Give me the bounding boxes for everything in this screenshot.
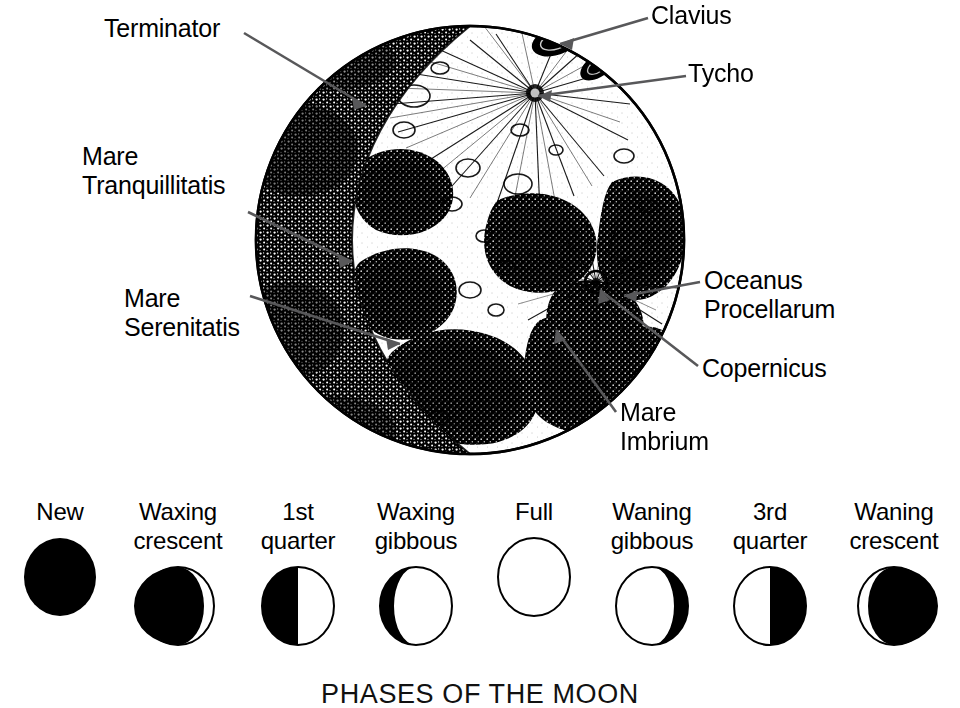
moon-disc xyxy=(240,20,686,464)
label-oceanus-procellarum: Oceanus Procellarum xyxy=(704,266,835,324)
phase-art-waxing-gibbous xyxy=(370,561,462,647)
phase-item-waning-gibbous: Waning gibbous xyxy=(592,497,712,651)
phase-art-waxing-crescent xyxy=(132,561,224,647)
label-clavius: Clavius xyxy=(651,1,732,30)
phase-art-waning-gibbous xyxy=(606,561,698,647)
label-mare-serenitatis: Mare Serenitatis xyxy=(124,284,240,342)
phase-label: Waxing crescent xyxy=(118,497,238,555)
moon-map-svg xyxy=(0,0,960,492)
phase-label: Waning gibbous xyxy=(592,497,712,555)
phase-art-first-quarter xyxy=(252,561,344,647)
phase-art-waning-crescent xyxy=(848,561,940,647)
moon-map-illustration: Terminator Mare Tranquillitatis Mare Ser… xyxy=(0,0,960,492)
phase-label: Full xyxy=(474,497,594,526)
label-mare-tranquillitatis: Mare Tranquillitatis xyxy=(82,142,225,200)
phase-label: 3rd quarter xyxy=(710,497,830,555)
phase-label: 1st quarter xyxy=(238,497,358,555)
phase-item-third-quarter: 3rd quarter xyxy=(710,497,830,651)
phase-art-full xyxy=(488,532,580,618)
phase-item-waxing-crescent: Waxing crescent xyxy=(118,497,238,651)
label-mare-imbrium: Mare Imbrium xyxy=(620,398,709,456)
moon-phases-figure: Terminator Mare Tranquillitatis Mare Ser… xyxy=(0,0,960,708)
phase-item-new: New xyxy=(0,497,120,622)
phase-item-full: Full xyxy=(474,497,594,622)
phase-item-waning-crescent: Waning crescent xyxy=(834,497,954,651)
figure-caption: PHASES OF THE MOON xyxy=(0,679,960,708)
phase-art-new xyxy=(14,532,106,618)
label-copernicus: Copernicus xyxy=(702,354,826,383)
phase-label: Waning crescent xyxy=(834,497,954,555)
label-terminator: Terminator xyxy=(104,14,220,43)
phase-label: Waxing gibbous xyxy=(356,497,476,555)
phase-art-third-quarter xyxy=(724,561,816,647)
phase-item-first-quarter: 1st quarter xyxy=(238,497,358,651)
phase-item-waxing-gibbous: Waxing gibbous xyxy=(356,497,476,651)
phase-row: New Waxing crescent 1st quarter Waxing g… xyxy=(0,497,960,677)
phase-label: New xyxy=(0,497,120,526)
label-tycho: Tycho xyxy=(688,59,754,88)
